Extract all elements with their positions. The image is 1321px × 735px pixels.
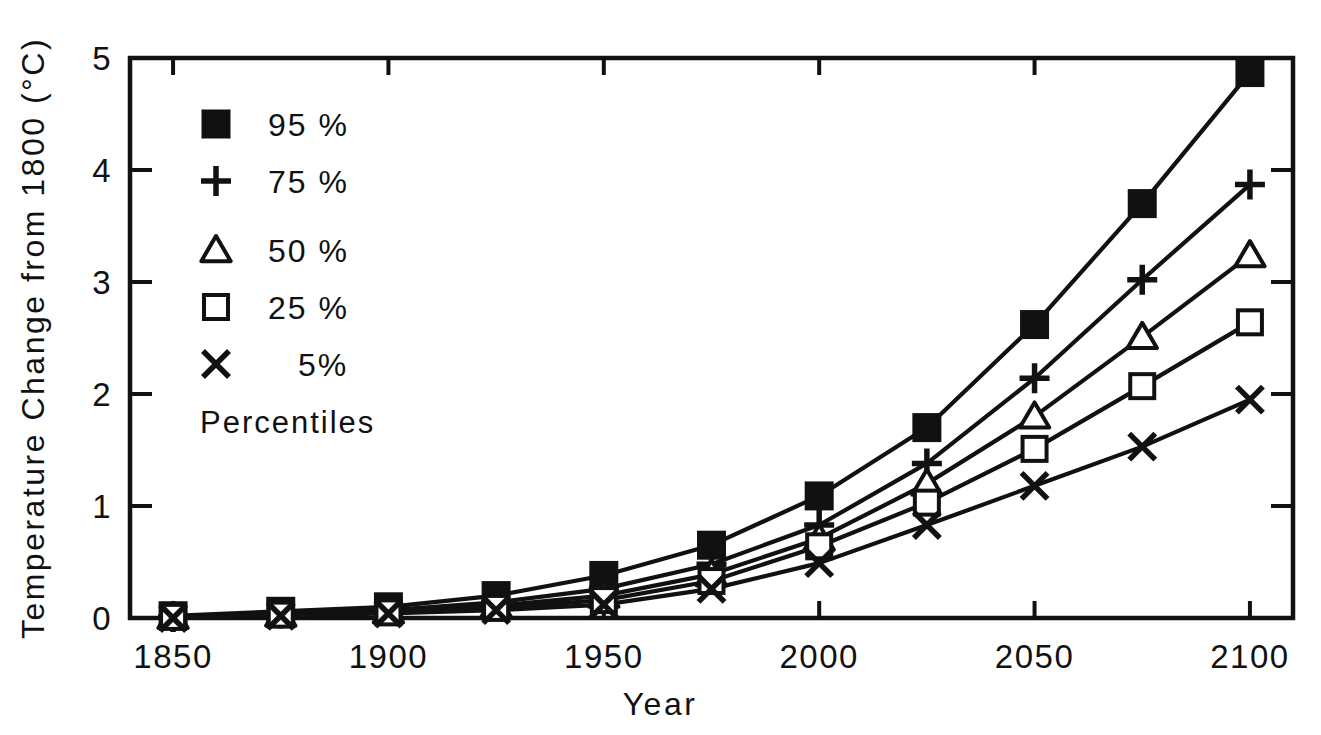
legend-label-95pct: 95 % xyxy=(268,107,349,143)
data-point-2025 xyxy=(915,491,939,515)
x-tick-label-2000: 2000 xyxy=(779,638,858,675)
y-tick-label-0: 0 xyxy=(92,600,112,637)
legend-label-75pct: 75 % xyxy=(268,164,349,200)
y-tick-label-4: 4 xyxy=(92,152,112,189)
legend-item-95pct[interactable]: 95 % xyxy=(203,107,349,143)
y-tick-label-1: 1 xyxy=(92,488,112,525)
x-tick-label-1950: 1950 xyxy=(564,638,643,675)
data-point-2000 xyxy=(806,483,832,509)
legend-label-50pct: 50 % xyxy=(268,233,349,269)
legend-marker-open-square xyxy=(204,295,228,319)
legend-caption: Percentiles xyxy=(200,405,375,440)
data-point-2050 xyxy=(1023,437,1047,461)
x-tick-label-1900: 1900 xyxy=(349,638,428,675)
data-point-2075 xyxy=(1130,374,1154,398)
legend-item-25pct[interactable]: 25 % xyxy=(204,290,349,326)
x-tick-label-2100: 2100 xyxy=(1210,638,1289,675)
figure-background xyxy=(0,0,1321,735)
x-tick-label-1850: 1850 xyxy=(133,638,212,675)
legend-marker-filled-square xyxy=(203,111,229,137)
data-point-2075 xyxy=(1129,191,1155,217)
chart-figure: 185019001950200020502100 012345 95 %75 %… xyxy=(0,0,1321,735)
y-tick-label-5: 5 xyxy=(92,40,112,77)
legend-label-5pct: 5% xyxy=(298,347,348,383)
y-tick-label-2: 2 xyxy=(92,376,112,413)
chart-svg: 185019001950200020502100 012345 95 %75 %… xyxy=(0,0,1321,735)
data-point-2050 xyxy=(1022,312,1048,338)
data-point-1950 xyxy=(592,588,616,612)
x-axis-title: Year xyxy=(623,686,698,722)
data-point-2100 xyxy=(1237,60,1263,86)
legend-label-25pct: 25 % xyxy=(268,290,349,326)
x-tick-label-2050: 2050 xyxy=(995,638,1074,675)
y-axis-title: Temperature Change from 1800 (°C) xyxy=(15,37,51,639)
data-point-2100 xyxy=(1238,310,1262,334)
data-point-2025 xyxy=(914,415,940,441)
y-tick-label-3: 3 xyxy=(92,264,112,301)
